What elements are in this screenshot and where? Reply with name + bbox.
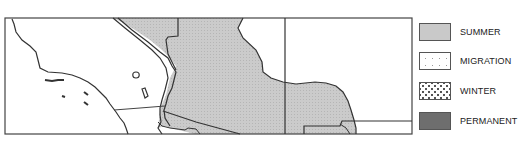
summer-range-area	[113, 18, 356, 134]
island	[84, 92, 88, 95]
migration-swatch-icon	[419, 52, 451, 70]
legend-label: MIGRATION	[460, 56, 511, 66]
island	[84, 102, 88, 105]
legend-item-summer: SUMMER	[419, 22, 501, 42]
permanent-swatch-icon	[419, 112, 451, 130]
legend-item-migration: MIGRATION	[419, 51, 511, 71]
lake	[142, 88, 148, 98]
island	[62, 96, 65, 97]
summer-swatch-icon	[419, 23, 451, 41]
lake	[133, 72, 139, 78]
coastline	[12, 19, 128, 134]
island	[45, 80, 64, 81]
legend-label: SUMMER	[460, 27, 501, 37]
legend-item-winter: WINTER	[419, 81, 496, 101]
legend-item-permanent: PERMANENT	[419, 111, 517, 131]
legend-label: PERMANENT	[460, 116, 517, 126]
winter-swatch-icon	[419, 82, 451, 100]
border-us-mexico-west	[114, 106, 165, 110]
legend-label: WINTER	[460, 86, 496, 96]
